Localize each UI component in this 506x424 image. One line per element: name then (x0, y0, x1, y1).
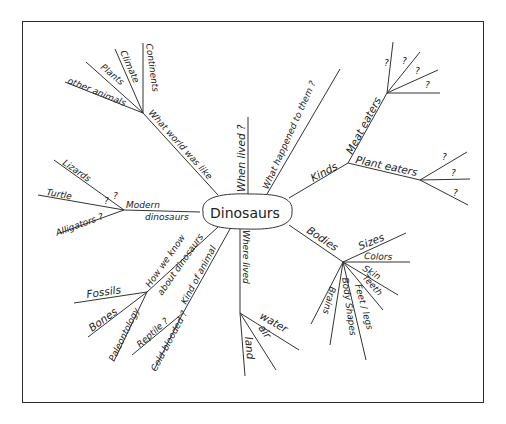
svg-text:Kinds: Kinds (308, 159, 339, 183)
svg-text:Cold-blooded ?: Cold-blooded ? (149, 309, 189, 373)
svg-text:?: ? (451, 168, 456, 178)
svg-text:What world was like: What world was like (147, 108, 215, 182)
svg-text:?: ? (384, 58, 389, 68)
branch-kind-of-animal: Kind of animal Reptile ? Cold-blooded ? (132, 229, 230, 373)
svg-text:Turtle: Turtle (46, 187, 73, 201)
mind-map: Dinosaurs What world was like Continents… (0, 0, 506, 424)
svg-text:?: ? (415, 66, 420, 76)
svg-text:Bones: Bones (86, 305, 120, 334)
branch-where-lived: Where lived water air land (240, 229, 299, 376)
svg-text:dinosaurs: dinosaurs (145, 212, 189, 222)
branch-bodies: Bodies Sizes Colors Skin Teeth Feet / le… (289, 224, 410, 360)
branch-modern-dinosaurs: Modern dinosaurs Lizards ? Turtle ? Alli… (38, 157, 200, 238)
svg-text:?: ? (442, 152, 447, 162)
svg-text:?: ? (453, 188, 458, 198)
svg-text:Plant eaters: Plant eaters (355, 153, 420, 178)
svg-text:?: ? (402, 56, 407, 66)
svg-text:?: ? (113, 191, 118, 201)
center-node: Dinosaurs (203, 194, 292, 229)
svg-text:land: land (243, 336, 257, 360)
svg-text:Fossils: Fossils (86, 283, 123, 300)
svg-text:Lizards: Lizards (61, 157, 93, 184)
svg-text:Where lived: Where lived (241, 230, 251, 284)
svg-text:Meat eaters: Meat eaters (343, 95, 383, 156)
svg-text:Modern: Modern (126, 200, 160, 210)
svg-text:Continents: Continents (144, 43, 161, 93)
svg-text:Alligators ?: Alligators ? (53, 211, 105, 238)
svg-text:When lived ?: When lived ? (235, 124, 247, 192)
svg-text:?: ? (425, 80, 430, 90)
branch-kinds: Kinds Meat eaters ? ? ? ? Plant eaters ?… (289, 42, 470, 205)
svg-text:?: ? (104, 196, 109, 206)
svg-text:Colors: Colors (364, 251, 393, 262)
svg-text:Bodies: Bodies (305, 224, 341, 254)
branch-when-lived: When lived ? (235, 117, 248, 194)
center-label: Dinosaurs (210, 205, 280, 221)
